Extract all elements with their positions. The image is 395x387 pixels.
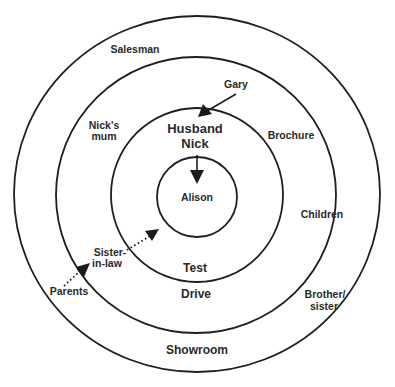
- label-alison: Alison: [181, 191, 213, 203]
- label-children: Children: [301, 208, 344, 220]
- label-parents: Parents: [50, 285, 89, 297]
- gary-to-husband-arrow: [198, 94, 236, 117]
- label-sister-in-law-line2: in-law: [92, 257, 123, 269]
- label-sister: sister: [310, 300, 338, 312]
- sister-in-law-to-alison-arrow: [127, 229, 159, 250]
- label-nicks-mum-line2: mum: [91, 130, 116, 142]
- label-gary: Gary: [224, 78, 248, 90]
- label-brochure: Brochure: [268, 129, 315, 141]
- label-nick: Nick: [181, 136, 209, 151]
- label-showroom: Showroom: [166, 343, 228, 357]
- husband-to-alison-arrow: [190, 155, 204, 184]
- label-test: Test: [183, 261, 207, 275]
- label-husband: Husband: [167, 121, 223, 136]
- label-drive: Drive: [181, 287, 211, 301]
- label-brother: Brother/: [305, 288, 346, 300]
- label-salesman: Salesman: [110, 43, 159, 55]
- concentric-influence-diagram: Salesman Gary Nick's mum Brochure Husban…: [0, 0, 395, 387]
